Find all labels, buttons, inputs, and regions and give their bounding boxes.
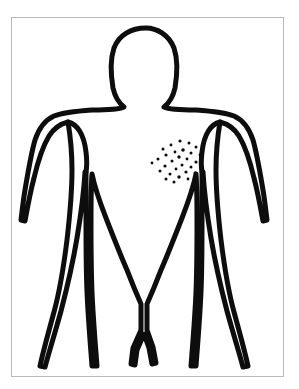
lesion-dot (151, 162, 154, 165)
lesion-dot (162, 148, 165, 151)
lesion-dot (159, 170, 162, 173)
lesion-dot (173, 181, 176, 184)
lesion-dot (190, 152, 193, 155)
lesion-dot (178, 139, 181, 142)
body-diagram-canvas: Front view body outline with a cluster o… (0, 0, 299, 389)
body-outline-figure (0, 0, 299, 389)
lesion-dot (187, 178, 190, 181)
lesion-dot (184, 170, 187, 173)
lesion-dot (165, 178, 168, 181)
lesion-dot (157, 158, 160, 161)
lesion-dot (175, 168, 178, 171)
lesion-dot (163, 164, 166, 167)
lesion-dot (194, 160, 197, 163)
lesion-dot (177, 155, 180, 158)
lesion-dot (171, 160, 174, 163)
lesion-dot (177, 175, 180, 178)
lesion-dot (190, 166, 193, 169)
body-outline-path (21, 28, 267, 367)
lesion-dot (174, 151, 177, 154)
lesion-dot (170, 144, 173, 147)
lesion-dot (169, 173, 172, 176)
lesion-dot (199, 154, 202, 157)
lesion-dot (195, 146, 198, 149)
lesion-dot (181, 148, 185, 152)
lesion-dot (181, 164, 184, 167)
lesion-dot (186, 158, 189, 161)
lesion-dot (188, 142, 191, 145)
lesion-dot (194, 172, 197, 175)
lesion-dot (164, 153, 167, 156)
